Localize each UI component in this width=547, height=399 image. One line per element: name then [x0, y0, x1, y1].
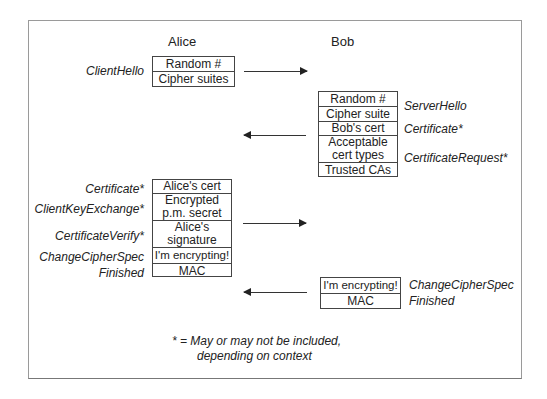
cell-im-encrypting: I'm encrypting! — [153, 248, 231, 264]
client-finished-label: Finished — [30, 266, 144, 280]
cell-alices-signature: Alice's signature — [153, 221, 231, 248]
cell-alices-cert: Alice's cert — [153, 180, 231, 194]
server-finished-label: Finished — [409, 294, 454, 308]
cell-server-im-encrypting: I'm encrypting! — [321, 278, 400, 294]
certificate-request-label: CertificateRequest* — [404, 151, 507, 165]
client-key-exchange-label: ClientKeyExchange* — [30, 202, 144, 216]
cell-cipher-suite: Cipher suite — [319, 107, 397, 122]
client-hello-label: ClientHello — [60, 64, 144, 78]
server-finish-box: I'm encrypting! MAC — [320, 277, 401, 309]
bob-header: Bob — [331, 34, 354, 49]
footnote-line1: * = May or may not be included, — [172, 334, 341, 349]
cell-cipher-suites: Cipher suites — [153, 72, 234, 87]
cell-encrypted-pm-secret: Encrypted p.m. secret — [153, 194, 231, 221]
server-hello-box: Random # Cipher suite Bob's cert Accepta… — [318, 91, 398, 177]
server-change-cipher-spec-label: ChangeCipherSpec — [409, 278, 514, 292]
cell-server-random: Random # — [319, 92, 397, 107]
arrow-left-icon — [244, 292, 307, 293]
arrow-left-icon — [244, 135, 306, 136]
footnote-line2: depending on context — [197, 349, 312, 364]
client-messages-box: Alice's cert Encrypted p.m. secret Alice… — [152, 179, 232, 277]
client-change-cipher-spec-label: ChangeCipherSpec — [30, 250, 144, 264]
server-hello-label: ServerHello — [404, 99, 467, 113]
certificate-verify-label: CertificateVerify* — [30, 229, 144, 243]
arrow-right-icon — [243, 223, 306, 224]
certificate-label: Certificate* — [404, 122, 463, 136]
client-certificate-label: Certificate* — [30, 182, 144, 196]
cell-trusted-cas: Trusted CAs — [319, 163, 397, 178]
cell-bobs-cert: Bob's cert — [319, 122, 397, 136]
client-hello-box: Random # Cipher suites — [152, 56, 235, 87]
alice-header: Alice — [168, 34, 196, 49]
arrow-right-icon — [244, 71, 307, 72]
cell-server-mac: MAC — [321, 294, 400, 309]
cell-mac: MAC — [153, 264, 231, 278]
cell-acceptable-cert-types: Acceptable cert types — [319, 136, 397, 163]
cell-random: Random # — [153, 57, 234, 72]
